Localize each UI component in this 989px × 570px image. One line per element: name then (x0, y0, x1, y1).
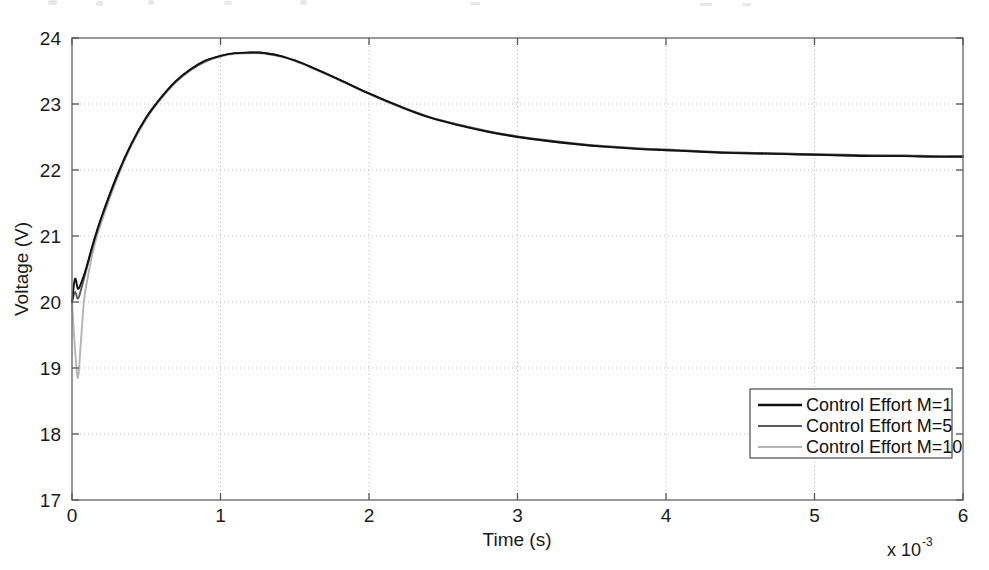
svg-text:x 10: x 10 (887, 540, 921, 560)
y-tick-labels: 1718192021222324 (40, 28, 62, 511)
legend[interactable]: Control Effort M=1Control Effort M=5Cont… (750, 389, 962, 458)
x-tick-label: 2 (364, 505, 375, 526)
y-tick-label: 17 (40, 490, 61, 511)
y-tick-label: 23 (40, 94, 61, 115)
x-axis-title: Time (s) (483, 529, 552, 550)
legend-label: Control Effort M=1 (806, 395, 952, 415)
x-tick-label: 0 (67, 505, 78, 526)
x-tick-label: 5 (809, 505, 820, 526)
y-tick-label: 21 (40, 226, 61, 247)
y-tick-label: 20 (40, 292, 61, 313)
y-tick-label: 19 (40, 358, 61, 379)
legend-label: Control Effort M=5 (806, 416, 952, 436)
x-axis-exponent: x 10 -3 (887, 535, 933, 560)
y-tick-label: 22 (40, 160, 61, 181)
legend-entries: Control Effort M=1Control Effort M=5Cont… (758, 395, 962, 457)
y-axis-title: Voltage (V) (11, 222, 32, 316)
figure-canvas: 0123456 1718192021222324 Time (s) Voltag… (0, 0, 989, 570)
x-tick-label: 6 (958, 505, 969, 526)
chart-plot: 0123456 1718192021222324 Time (s) Voltag… (0, 0, 989, 570)
x-tick-labels: 0123456 (67, 505, 969, 526)
x-tick-label: 3 (512, 505, 523, 526)
y-tick-label: 18 (40, 424, 61, 445)
svg-text:-3: -3 (922, 535, 933, 549)
x-tick-label: 4 (661, 505, 672, 526)
x-tick-label: 1 (215, 505, 226, 526)
legend-label: Control Effort M=10 (806, 437, 962, 457)
y-tick-label: 24 (40, 28, 62, 49)
